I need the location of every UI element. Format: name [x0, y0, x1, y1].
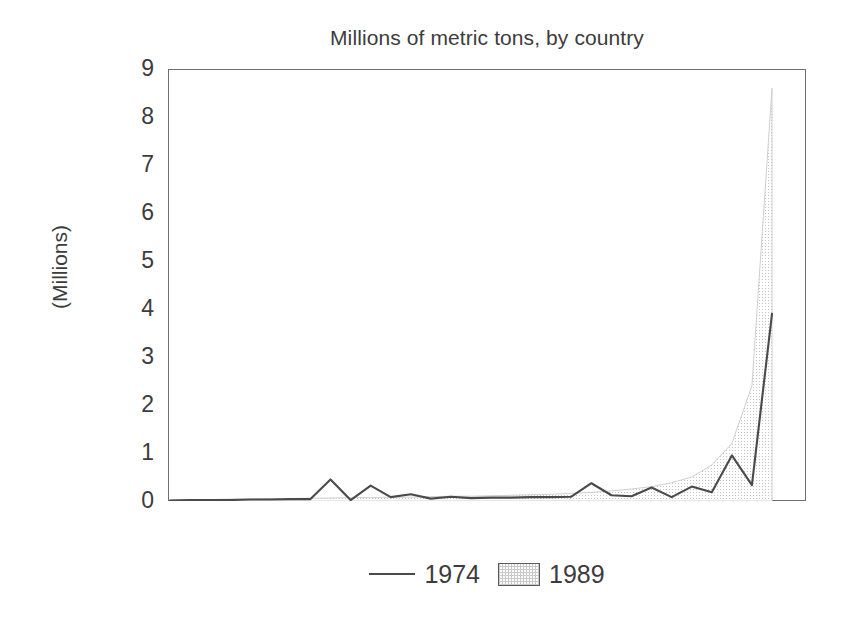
- legend-entry-1974: 1974: [369, 562, 480, 587]
- series-area-1989: [170, 88, 772, 501]
- y-tick-label: 6: [120, 201, 154, 224]
- y-tick-label: 4: [120, 297, 154, 320]
- chart-title: Millions of metric tons, by country: [168, 26, 806, 50]
- legend-label-1989: 1989: [549, 562, 605, 587]
- y-axis-label: (Millions): [48, 192, 72, 342]
- legend-swatch-marker-icon: [498, 563, 540, 586]
- series-line-1974: [170, 314, 772, 501]
- y-tick-label: 5: [120, 249, 154, 272]
- legend-line-marker-icon: [369, 573, 415, 575]
- y-tick-label: 0: [120, 489, 154, 512]
- y-tick-label: 8: [120, 105, 154, 128]
- legend-entry-1989: 1989: [498, 562, 605, 587]
- legend-label-1974: 1974: [424, 562, 480, 587]
- chart-legend: 1974 1989: [168, 552, 806, 596]
- y-tick-label: 2: [120, 393, 154, 416]
- y-tick-label: 1: [120, 441, 154, 464]
- plot-canvas: [168, 69, 806, 501]
- y-tick-label: 3: [120, 345, 154, 368]
- chart-figure: Millions of metric tons, by country (Mil…: [0, 0, 844, 619]
- y-tick-label: 7: [120, 153, 154, 176]
- y-tick-label: 9: [120, 57, 154, 80]
